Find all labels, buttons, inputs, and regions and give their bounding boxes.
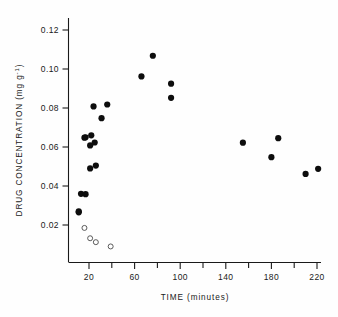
data-point-filled [168, 95, 174, 101]
y-axis-ticks: 0.020.040.060.080.100.12 [41, 25, 69, 230]
y-tick-label: 0.02 [41, 220, 59, 230]
data-point-filled [88, 132, 94, 138]
data-point-open [108, 244, 113, 249]
y-axis-title-group: DRUG CONCENTRATION (mg g-1) [14, 64, 24, 217]
scatter-plot-figure: 0.020.040.060.080.100.12 206010014018022… [0, 0, 338, 317]
y-tick-label: 0.04 [41, 181, 59, 191]
x-tick-label: 220 [309, 272, 324, 282]
data-point-open [82, 225, 87, 230]
x-tick-label: 20 [84, 272, 94, 282]
x-axis-title: TIME (minutes) [161, 293, 230, 302]
data-point-filled [76, 208, 82, 214]
data-point-filled [87, 165, 93, 171]
x-tick-label: 60 [129, 272, 139, 282]
data-points-group [76, 53, 322, 249]
data-point-filled [240, 140, 246, 146]
y-tick-label: 0.12 [41, 25, 59, 35]
data-point-filled [303, 171, 309, 177]
data-point-filled [92, 139, 98, 145]
y-tick-label: 0.06 [41, 142, 59, 152]
data-point-filled [138, 73, 144, 79]
data-point-filled [93, 162, 99, 168]
x-tick-label: 140 [218, 272, 233, 282]
y-tick-label: 0.10 [41, 64, 59, 74]
x-tick-label: 100 [173, 272, 188, 282]
data-point-filled [82, 134, 88, 140]
axes-group [69, 18, 322, 263]
data-point-filled [150, 53, 156, 59]
x-axis-ticks: 2060100140180220 [84, 263, 325, 283]
data-point-filled [275, 135, 281, 141]
data-point-filled [98, 115, 104, 121]
x-tick-label: 180 [264, 272, 279, 282]
data-point-filled [168, 81, 174, 87]
y-axis-title: DRUG CONCENTRATION (mg g-1) [14, 64, 24, 217]
y-tick-label: 0.08 [41, 103, 59, 113]
y-axis-title-main: DRUG CONCENTRATION (mg g [15, 74, 24, 216]
data-point-open [88, 236, 93, 241]
data-point-filled [90, 103, 96, 109]
data-point-filled [315, 166, 321, 172]
y-axis-title-superscript: -1 [14, 67, 20, 74]
data-point-open [93, 240, 98, 245]
y-axis-title-suffix: ) [15, 64, 24, 68]
data-point-filled [104, 101, 110, 107]
chart-canvas: 0.020.040.060.080.100.12 206010014018022… [0, 0, 338, 317]
data-point-filled [268, 154, 274, 160]
data-point-filled [82, 191, 88, 197]
